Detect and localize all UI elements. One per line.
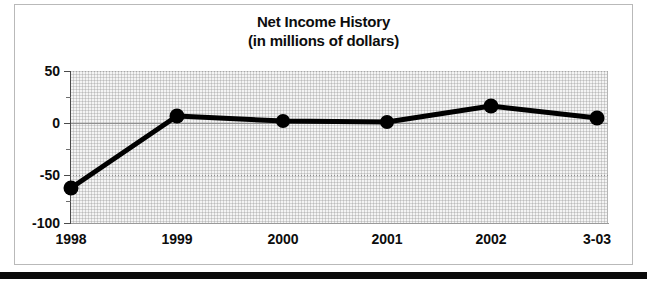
x-axis-label-3-03: 3-03	[557, 231, 637, 247]
x-axis-label-1998: 1998	[31, 231, 111, 247]
x-axis-label-1999: 1999	[137, 231, 217, 247]
data-point-2000	[276, 114, 290, 128]
data-point-2001	[380, 115, 394, 129]
data-point-3-03	[590, 111, 605, 126]
x-axis-label-2001: 2001	[347, 231, 427, 247]
data-point-2002	[484, 99, 499, 114]
data-point-1999	[170, 109, 185, 124]
x-axis-label-2000: 2000	[243, 231, 323, 247]
x-axis-label-2002: 2002	[451, 231, 531, 247]
chart-page: Net Income History (in millions of dolla…	[0, 0, 647, 282]
series-line	[71, 106, 597, 188]
plot-wrapper: 50 0 -50 -100 1998 1999 2000 2001 2002 3…	[0, 0, 647, 282]
data-point-1998	[64, 181, 79, 196]
page-bottom-rule	[0, 272, 647, 279]
